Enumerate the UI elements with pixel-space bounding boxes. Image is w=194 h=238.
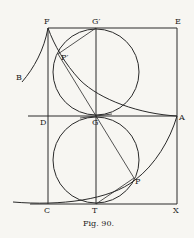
- label-a: A: [178, 113, 185, 122]
- label-b: B: [16, 73, 22, 82]
- label-d: D: [40, 118, 46, 127]
- label-p: P: [135, 177, 141, 186]
- figure-90-diagram: F G′ E B P′ D G A P C T X Fig. 90.: [0, 0, 194, 238]
- cycloid-upper: [48, 28, 177, 116]
- label-p-prime: P′: [61, 53, 68, 62]
- figure-caption: Fig. 90.: [83, 219, 114, 228]
- line-g-p: [96, 116, 134, 178]
- cycloid-lower: [13, 116, 177, 203]
- label-e: E: [175, 17, 181, 26]
- cycloid-branch-b: [22, 28, 48, 82]
- label-g-prime: G′: [92, 17, 100, 26]
- line-t-p: [96, 178, 134, 204]
- label-x: X: [173, 206, 179, 215]
- line-g-prime-p-prime: [58, 28, 96, 54]
- line-p-prime-g: [58, 54, 96, 116]
- label-t: T: [92, 206, 98, 215]
- label-c: C: [44, 206, 50, 215]
- label-g: G: [92, 118, 98, 127]
- label-f: F: [44, 17, 50, 26]
